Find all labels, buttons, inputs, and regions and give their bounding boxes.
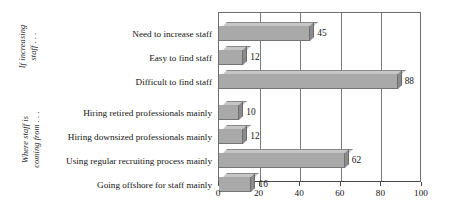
group-label-line: Where staff is bbox=[21, 97, 32, 183]
category-axis-labels: Need to increase staff Easy to find staf… bbox=[56, 12, 215, 182]
x-axis-tick-label: 20 bbox=[254, 188, 263, 198]
bar-front-face bbox=[219, 105, 239, 120]
bar bbox=[219, 149, 349, 168]
bar-value-label: 12 bbox=[250, 131, 259, 141]
x-axis-tick bbox=[218, 182, 219, 186]
x-axis-tick-label: 80 bbox=[376, 188, 385, 198]
x-axis-tick bbox=[340, 182, 341, 186]
bar-front-face bbox=[219, 153, 345, 168]
x-axis-tick-label: 60 bbox=[335, 188, 344, 198]
x-axis-tick bbox=[259, 182, 260, 186]
bar-front-face bbox=[219, 129, 243, 144]
bar-side-face bbox=[310, 22, 314, 41]
group-label-line: coming from . . . bbox=[31, 97, 42, 183]
x-axis-tick bbox=[299, 182, 300, 186]
category-label: Difficult to find staff bbox=[136, 77, 212, 87]
bar-side-face bbox=[243, 46, 247, 65]
bar-value-label: 88 bbox=[405, 76, 414, 86]
category-label: Using regular recruiting process mainly bbox=[66, 156, 212, 166]
bar-side-face bbox=[243, 125, 247, 144]
x-axis-tick-label: 40 bbox=[295, 188, 304, 198]
bar-front-face bbox=[219, 74, 398, 89]
category-label: Easy to find staff bbox=[149, 53, 212, 63]
category-label: Hiring retired professionals mainly bbox=[83, 108, 212, 118]
bar bbox=[219, 101, 243, 120]
bar-side-face bbox=[398, 70, 402, 89]
group-label-if-increasing-staff: If increasing staff . . . bbox=[18, 10, 39, 84]
category-label: Going offshore for staff mainly bbox=[97, 180, 212, 190]
x-axis-tick-label: 0 bbox=[216, 188, 221, 198]
bar-side-face bbox=[239, 101, 243, 120]
x-axis-tick bbox=[380, 182, 381, 186]
group-label-line: staff . . . bbox=[28, 10, 39, 84]
x-axis-tick-label: 100 bbox=[414, 188, 428, 198]
bar bbox=[219, 125, 247, 144]
bar-value-label: 12 bbox=[250, 52, 259, 62]
category-label: Need to increase staff bbox=[132, 29, 212, 39]
group-label-line: If increasing bbox=[18, 10, 29, 84]
bar-front-face bbox=[219, 26, 310, 41]
bar-value-label: 10 bbox=[246, 107, 255, 117]
gridline bbox=[381, 13, 382, 181]
x-axis-tick bbox=[421, 182, 422, 186]
bar bbox=[219, 70, 402, 89]
bar-value-label: 45 bbox=[317, 28, 326, 38]
category-label: Hiring downsized professionals mainly bbox=[68, 132, 212, 142]
bar-front-face bbox=[219, 177, 251, 192]
bar-chart: If increasing staff . . . Where staff is… bbox=[0, 0, 451, 212]
bar-front-face bbox=[219, 50, 243, 65]
bar-value-label: 62 bbox=[352, 155, 361, 165]
bar bbox=[219, 22, 314, 41]
group-label-where-staff-is-coming-from: Where staff is coming from . . . bbox=[21, 97, 42, 183]
bar bbox=[219, 173, 255, 192]
bar-side-face bbox=[345, 149, 349, 168]
bar bbox=[219, 46, 247, 65]
